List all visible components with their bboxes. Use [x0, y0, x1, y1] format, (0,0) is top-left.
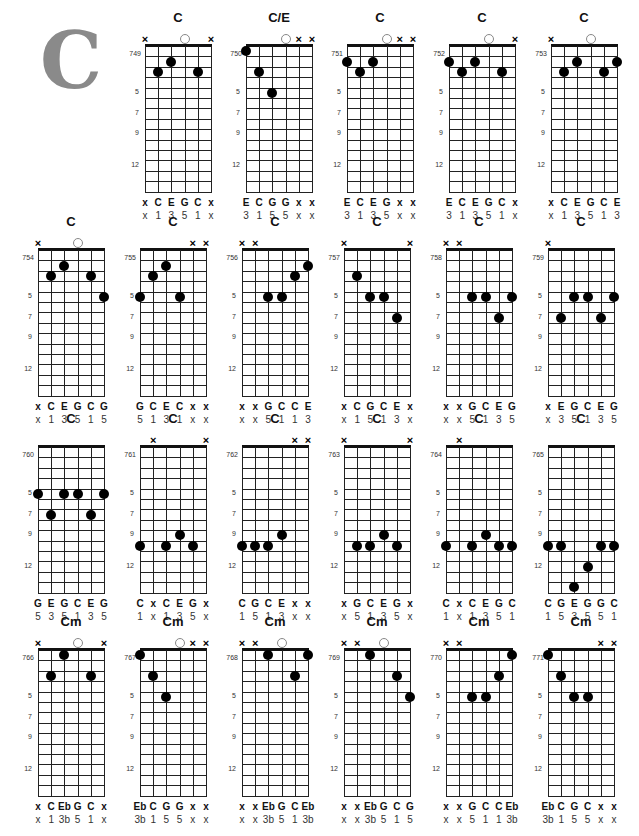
fret-line: [242, 775, 309, 776]
fret-line: [246, 108, 313, 109]
fret-line: [344, 375, 411, 376]
string-line: [499, 250, 500, 396]
fret-line: [38, 260, 105, 261]
chord-number: 762: [220, 451, 238, 458]
chord-diagram: C75757912××xCGCExx1513x: [322, 210, 432, 436]
fret-number-label: 5: [222, 292, 236, 299]
fret-line: [38, 312, 105, 313]
finger-dot: [392, 671, 402, 681]
nut: [38, 248, 105, 251]
fret-line: [140, 344, 207, 345]
finger-dot: [263, 292, 273, 302]
fret-number-label: 12: [426, 765, 440, 772]
fret-line: [449, 181, 516, 182]
chord-diagram: Cm76857912××xxEbGCEbxx3b513b: [220, 610, 330, 836]
muted-string-icon: ×: [405, 435, 415, 445]
finger-dot: [161, 261, 171, 271]
string-note-label: x: [304, 197, 320, 208]
fret-line: [38, 468, 105, 469]
fret-line: [449, 171, 516, 172]
fret-number-label: 12: [528, 765, 542, 772]
finger-dot: [583, 292, 593, 302]
string-line: [601, 650, 602, 796]
fret-line: [140, 723, 207, 724]
muted-string-icon: ×: [188, 238, 198, 248]
string-line: [166, 650, 167, 796]
string-line: [551, 46, 552, 192]
fret-line: [446, 593, 513, 594]
finger-dot: [392, 541, 402, 551]
fret-line: [344, 764, 411, 765]
fret-line: [246, 192, 313, 193]
finger-dot: [494, 541, 504, 551]
fret-line: [548, 281, 615, 282]
chord-number: 750: [224, 50, 242, 57]
fret-line: [347, 56, 414, 57]
fret-line: [242, 712, 309, 713]
muted-string-icon: ×: [339, 638, 349, 648]
fret-line: [242, 489, 309, 490]
fret-number-label: 9: [120, 733, 134, 740]
open-string-icon: [586, 34, 596, 44]
fret-line: [38, 551, 105, 552]
fret-line: [145, 140, 212, 141]
muted-string-icon: ×: [237, 238, 247, 248]
finger-dot: [543, 541, 553, 551]
fret-line: [548, 396, 615, 397]
string-line: [171, 46, 172, 192]
fret-number-label: 9: [120, 530, 134, 537]
chord-diagram: C75857912××xxGCEGxx5135: [424, 210, 534, 436]
finger-dot: [33, 489, 43, 499]
fret-line: [145, 88, 212, 89]
string-line: [397, 447, 398, 593]
fret-line: [242, 733, 309, 734]
muted-string-icon: ×: [546, 34, 556, 44]
string-line: [601, 250, 602, 396]
chord-diagram: Cm76657912××xCEbGCxx13b51x: [16, 610, 126, 836]
nut: [551, 44, 618, 47]
fret-line: [548, 660, 615, 661]
finger-dot: [166, 57, 176, 67]
finger-dot: [444, 57, 454, 67]
fret-line: [344, 785, 411, 786]
fret-number-label: 12: [222, 765, 236, 772]
fret-line: [344, 733, 411, 734]
fret-line: [344, 660, 411, 661]
chord-name: C: [16, 214, 126, 229]
fret-line: [38, 723, 105, 724]
fret-line: [446, 499, 513, 500]
string-line: [410, 447, 411, 593]
string-note-label: x: [405, 197, 421, 208]
string-line: [38, 250, 39, 396]
chord-diagram: C75257912×ECEGCx31351x: [427, 6, 537, 232]
fret-line: [344, 385, 411, 386]
string-line: [295, 447, 296, 593]
string-line: [373, 46, 374, 192]
string-line: [166, 447, 167, 593]
muted-string-icon: ×: [33, 238, 43, 248]
fret-line: [140, 744, 207, 745]
fret-line: [242, 551, 309, 552]
fret-number-label: 9: [429, 129, 443, 136]
string-note-label: x: [507, 197, 523, 208]
fret-line: [548, 593, 615, 594]
fret-line: [344, 520, 411, 521]
fret-line: [38, 785, 105, 786]
fret-line: [242, 385, 309, 386]
string-note-label: Eb: [300, 801, 316, 812]
finger-dot: [59, 489, 69, 499]
nut: [344, 445, 411, 448]
fret-line: [38, 530, 105, 531]
fret-line: [140, 551, 207, 552]
muted-string-icon: ×: [454, 435, 464, 445]
muted-string-icon: ×: [543, 238, 553, 248]
fret-line: [548, 551, 615, 552]
fret-line: [446, 681, 513, 682]
muted-string-icon: ×: [206, 34, 216, 44]
string-line: [548, 447, 549, 593]
string-note-label: x: [198, 801, 214, 812]
string-line: [185, 46, 186, 192]
chord-diagram: C75657912××xxGCCExx5113: [220, 210, 330, 436]
fret-number-label: 7: [429, 109, 443, 116]
fret-number-label: 7: [426, 510, 440, 517]
